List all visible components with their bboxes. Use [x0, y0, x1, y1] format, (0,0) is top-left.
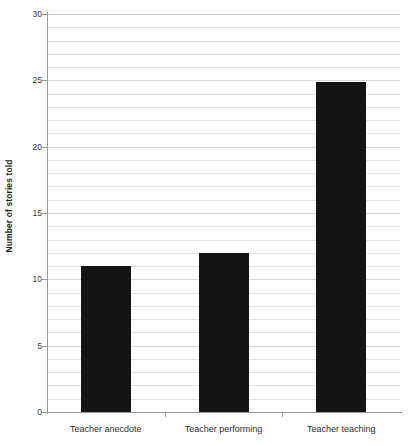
y-axis-tick-mark: [42, 147, 47, 148]
x-axis-tick-mark: [165, 413, 166, 417]
plot-area: [47, 14, 400, 412]
x-axis-line: [47, 412, 402, 413]
x-axis-tick-mark: [282, 413, 283, 417]
y-axis-tick-mark: [42, 346, 47, 347]
y-axis-tick-label: 20: [8, 142, 42, 151]
bar-chart: Number of stories told 051015202530 Teac…: [0, 0, 414, 446]
y-axis-tick-labels: 051015202530: [8, 0, 42, 446]
y-axis-tick-mark: [42, 14, 47, 15]
y-axis-tick-label: 10: [8, 275, 42, 284]
x-axis-category-label: Teacher performing: [165, 420, 283, 438]
y-axis-tick-label: 30: [8, 10, 42, 19]
y-axis-line: [47, 12, 48, 414]
gridline: [47, 54, 400, 55]
y-axis-tick-label: 25: [8, 76, 42, 85]
x-axis-category-label: Teacher anecdote: [47, 420, 165, 438]
y-axis-tick-mark: [42, 412, 47, 413]
y-axis-tick-label: 5: [8, 341, 42, 350]
x-axis-category-labels: Teacher anecdoteTeacher performingTeache…: [47, 420, 400, 442]
y-axis-tick-label: 0: [8, 408, 42, 417]
gridline: [47, 14, 400, 15]
y-axis-tick-mark: [42, 279, 47, 280]
bar: [81, 266, 131, 412]
y-axis-tick-mark: [42, 80, 47, 81]
y-axis-tick-mark: [42, 213, 47, 214]
y-axis-tick-label: 15: [8, 209, 42, 218]
gridline: [47, 41, 400, 42]
bar: [199, 253, 249, 412]
x-axis-category-label: Teacher teaching: [282, 420, 400, 438]
gridline: [47, 67, 400, 68]
gridline: [47, 27, 400, 28]
bar: [316, 82, 366, 412]
